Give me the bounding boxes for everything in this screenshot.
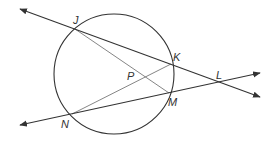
- label-N: N: [61, 118, 69, 130]
- secant-line-NML: [20, 73, 260, 125]
- label-P: P: [127, 70, 135, 82]
- chord-JM: [75, 29, 169, 93]
- label-K: K: [173, 51, 181, 63]
- label-M: M: [168, 96, 178, 108]
- chord-NK: [72, 64, 171, 114]
- circle: [54, 14, 174, 134]
- label-L: L: [216, 69, 222, 81]
- secant-line-JKL: [20, 9, 260, 97]
- geometry-diagram: J K L M N P: [0, 0, 273, 145]
- label-J: J: [72, 14, 79, 26]
